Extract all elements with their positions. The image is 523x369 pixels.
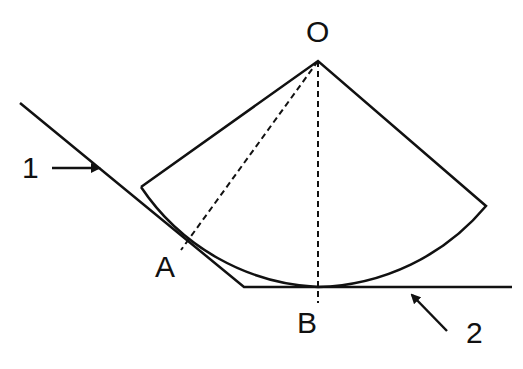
arrow-2-icon [412,295,447,331]
surface-incline-line [20,103,512,287]
label-2: 2 [466,316,483,349]
label-A: A [155,250,175,283]
sector-outline [141,61,486,287]
label-1: 1 [22,151,39,184]
label-B: B [297,306,317,339]
diagram-canvas: O A B 1 2 [0,0,523,369]
label-O: O [306,15,329,48]
radius-OA-dashed [181,61,318,250]
